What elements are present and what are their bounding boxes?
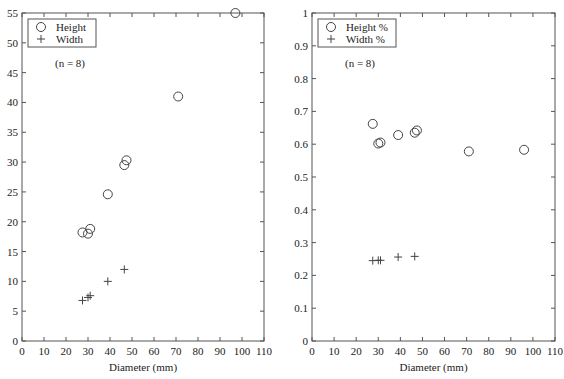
- y-tick-label: 50: [7, 37, 19, 49]
- x-tick-label: 100: [525, 345, 542, 357]
- x-tick-label: 50: [417, 345, 429, 357]
- y-tick-label: 10: [7, 275, 19, 287]
- legend-label: Height: [56, 21, 86, 33]
- x-tick-label: 30: [83, 345, 95, 357]
- y-tick-label: 30: [7, 156, 19, 168]
- x-tick-label: 40: [105, 345, 117, 357]
- x-tick-label: 110: [547, 345, 564, 357]
- x-tick-label: 80: [193, 345, 205, 357]
- y-tick-label: 35: [7, 126, 19, 138]
- x-tick-label: 70: [171, 345, 183, 357]
- data-point: [86, 292, 94, 300]
- data-point: [411, 252, 419, 260]
- y-tick-label: 0.2: [294, 269, 308, 281]
- data-point: [120, 265, 128, 273]
- data-point: [376, 256, 384, 264]
- y-tick-label: 55: [7, 7, 19, 19]
- x-tick-label: 20: [61, 345, 73, 357]
- x-tick-label: 0: [19, 345, 25, 357]
- x-tick-label: 70: [461, 345, 473, 357]
- chart-panel-1: 0102030405060708090100110051015202530354…: [7, 7, 273, 374]
- y-tick-label: 0: [303, 335, 309, 347]
- y-tick-label: 0.3: [294, 237, 308, 249]
- y-tick-label: 0.9: [294, 40, 308, 52]
- sample-size-annotation: (n = 8): [55, 57, 85, 70]
- y-tick-label: 0.7: [294, 105, 308, 117]
- y-tick-label: 45: [7, 67, 19, 79]
- x-tick-label: 60: [149, 345, 161, 357]
- x-tick-label: 90: [505, 345, 517, 357]
- y-tick-label: 0.8: [294, 73, 308, 85]
- legend-label: Height %: [346, 21, 388, 33]
- y-tick-label: 40: [7, 96, 19, 108]
- data-point: [103, 190, 112, 199]
- y-tick-label: 1: [303, 7, 309, 19]
- x-tick-label: 90: [215, 345, 227, 357]
- legend-label: Width: [56, 33, 84, 45]
- legend: Height %Width %: [318, 19, 396, 47]
- x-tick-label: 60: [439, 345, 451, 357]
- x-tick-label: 30: [373, 345, 385, 357]
- y-tick-label: 0: [13, 335, 19, 347]
- data-point: [410, 128, 419, 137]
- y-tick-label: 0.1: [294, 302, 308, 314]
- series-width: [369, 252, 419, 264]
- data-point: [520, 145, 529, 154]
- x-tick-label: 10: [329, 345, 341, 357]
- chart-panel-2: 010203040506070809010011000.10.20.30.40.…: [294, 7, 563, 374]
- data-point: [394, 253, 402, 261]
- x-tick-label: 100: [234, 345, 251, 357]
- chart-canvas: 0102030405060708090100110051015202530354…: [0, 0, 564, 379]
- y-tick-label: 0.5: [294, 171, 308, 183]
- sample-size-annotation: (n = 8): [345, 57, 375, 70]
- data-point: [394, 131, 403, 140]
- x-tick-label: 20: [351, 345, 363, 357]
- y-tick-label: 5: [13, 305, 19, 317]
- x-axis-label: Diameter (mm): [109, 361, 177, 374]
- x-tick-label: 80: [483, 345, 495, 357]
- series-height: [78, 9, 240, 239]
- legend-label: Width %: [346, 33, 385, 45]
- series-width: [79, 265, 129, 304]
- y-tick-label: 0.4: [294, 204, 308, 216]
- y-tick-label: 25: [7, 186, 19, 198]
- y-tick-label: 0.6: [294, 138, 308, 150]
- y-tick-label: 15: [7, 246, 19, 258]
- x-tick-label: 10: [39, 345, 51, 357]
- x-tick-label: 110: [256, 345, 273, 357]
- x-tick-label: 0: [309, 345, 315, 357]
- x-axis-label: Diameter (mm): [399, 361, 467, 374]
- data-point: [412, 126, 421, 135]
- x-tick-label: 40: [395, 345, 407, 357]
- data-point: [174, 92, 183, 101]
- data-point: [464, 147, 473, 156]
- y-tick-label: 20: [7, 216, 19, 228]
- x-tick-label: 50: [127, 345, 139, 357]
- legend: HeightWidth: [28, 19, 96, 47]
- data-point: [368, 119, 377, 128]
- series-height: [368, 119, 528, 156]
- data-point: [104, 277, 112, 285]
